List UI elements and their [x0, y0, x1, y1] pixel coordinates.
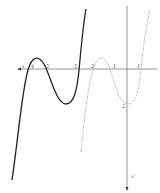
graph-svg — [0, 0, 160, 193]
intercept-label: 2' — [91, 64, 96, 69]
x-axis-arrow-icon — [17, 68, 21, 71]
diagram-canvas: x x' 4 5 5 2' 1 1' 2 — [0, 0, 160, 193]
intercept-label: 4 — [31, 64, 34, 69]
solid-cubic-curve — [12, 9, 86, 180]
intercept-label: 1 — [113, 64, 116, 69]
dotted-cubic-curve — [81, 9, 150, 152]
y-axis-arrow-icon — [126, 187, 129, 191]
intercept-label: 5 — [74, 64, 77, 69]
intercept-label: 1' — [137, 64, 142, 69]
intercept-label: 5 — [46, 64, 49, 69]
y-intercept-label: 2 — [122, 104, 125, 109]
x-axis-label: x — [22, 64, 25, 69]
y-axis-label: x' — [131, 174, 135, 179]
